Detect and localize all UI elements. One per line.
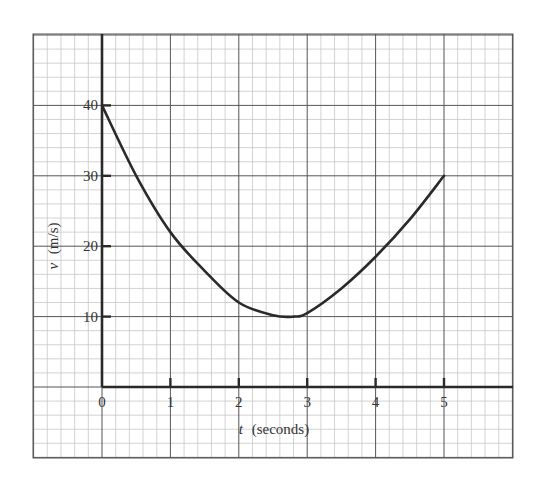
y-tick-label: 20 [83,238,98,254]
x-tick-label: 1 [167,394,175,410]
y-tick-label: 30 [83,168,98,184]
x-axis-unit: (seconds) [252,421,309,438]
y-axis-variable: v [45,263,61,270]
x-tick-label: 3 [303,394,311,410]
velocity-curve [102,105,444,317]
y-tick-label: 40 [83,97,98,113]
y-tick-labels: 10203040 [83,97,98,324]
y-axis-unit: (m/s) [45,222,62,254]
x-tick-labels: 012345 [98,394,448,410]
x-tick-label: 5 [440,394,448,410]
x-tick-label: 4 [372,394,380,410]
x-axis-variable: t [239,421,244,437]
x-tick-label: 0 [98,394,106,410]
velocity-time-chart: 012345 10203040 t (seconds) v (m/s) [0,0,539,482]
y-axis-label: v (m/s) [45,222,62,269]
x-tick-label: 2 [235,394,243,410]
y-tick-label: 10 [83,309,98,325]
